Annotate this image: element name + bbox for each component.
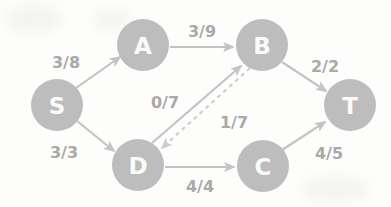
node-d-label: D	[128, 153, 147, 179]
edge-a-b-label: 3/9	[188, 22, 216, 41]
node-a-label: A	[134, 33, 152, 59]
node-d[interactable]: D	[112, 139, 164, 191]
edge-d-b-label: 0/7	[151, 93, 179, 112]
edge-s-a-line	[76, 57, 120, 88]
flow-network-graph: 3/8 3/3 3/9 2/2 0/7	[0, 0, 391, 207]
node-c[interactable]: C	[237, 140, 289, 192]
edge-c-t-label: 4/5	[315, 144, 343, 163]
node-a[interactable]: A	[117, 19, 169, 71]
edge-b-t[interactable]: 2/2	[282, 57, 339, 92]
node-t-label: T	[342, 93, 358, 119]
edge-s-a-label: 3/8	[52, 53, 80, 72]
node-s[interactable]: S	[31, 79, 83, 131]
edge-d-c[interactable]: 4/4	[165, 167, 234, 196]
edge-s-d-line	[77, 121, 114, 151]
edge-group: 3/8 3/3 3/9 2/2 0/7	[50, 22, 343, 196]
edge-a-b[interactable]: 3/9	[170, 22, 233, 48]
node-c-label: C	[255, 154, 272, 180]
node-b[interactable]: B	[236, 19, 288, 71]
diagram-canvas: 3/8 3/3 3/9 2/2 0/7	[0, 0, 391, 207]
edge-b-d-label: 1/7	[220, 113, 248, 132]
node-s-label: S	[49, 93, 66, 119]
edge-d-c-label: 4/4	[186, 177, 214, 196]
node-b-label: B	[253, 33, 271, 59]
edge-c-t[interactable]: 4/5	[282, 122, 343, 163]
edge-s-d-label: 3/3	[50, 143, 78, 162]
node-t[interactable]: T	[324, 79, 376, 131]
edge-b-t-label: 2/2	[311, 57, 339, 76]
